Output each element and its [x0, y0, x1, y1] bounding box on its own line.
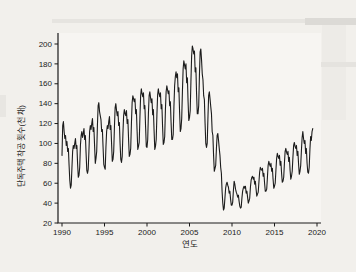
x-tick-label: 2005: [181, 228, 199, 237]
y-tick-label: 100: [39, 139, 53, 148]
y-tick-label: 60: [43, 179, 52, 188]
y-axis-label: 단독주택 착공 횟수(천 채): [16, 105, 26, 187]
x-tick-label: 1990: [53, 228, 71, 237]
scanned-chart-figure: 2040608010012014016018020019901995200020…: [0, 0, 356, 272]
x-axis-label: 연도: [182, 239, 198, 249]
y-tick-label: 40: [43, 199, 52, 208]
y-tick-label: 120: [39, 119, 53, 128]
y-tick-label: 160: [39, 79, 53, 88]
y-tick-label: 200: [39, 40, 53, 49]
y-tick-label: 20: [43, 219, 52, 228]
y-tick-label: 140: [39, 99, 53, 108]
line-chart: 2040608010012014016018020019901995200020…: [0, 0, 356, 272]
x-tick-label: 2020: [308, 228, 326, 237]
y-tick-label: 180: [39, 60, 53, 69]
x-tick-label: 2010: [223, 228, 241, 237]
x-tick-label: 1995: [96, 228, 114, 237]
x-tick-label: 2015: [266, 228, 284, 237]
y-tick-label: 80: [43, 159, 52, 168]
x-tick-label: 2000: [138, 228, 156, 237]
